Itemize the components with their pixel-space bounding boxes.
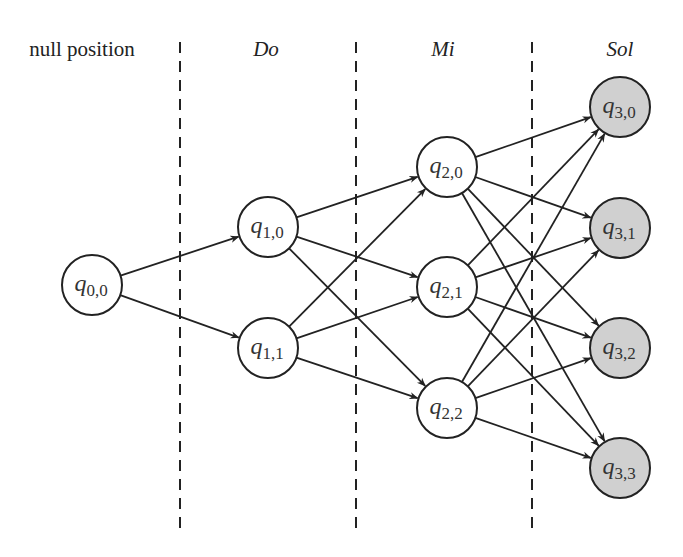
state-node-q20: q2,0 [417,137,477,197]
edge-q11-q20 [289,189,425,327]
edge-q22-q33 [475,418,590,458]
edge-q10-q20 [296,177,417,218]
state-transition-diagram: null positionDoMiSol q0,0q1,0q1,1q2,0q2,… [0,0,683,557]
edge-q21-q30 [468,129,599,265]
edge-q22-q32 [475,358,590,398]
edge-q21-q33 [468,309,599,446]
state-node-q30: q3,0 [590,77,650,137]
column-label: Sol [607,37,634,61]
state-node-q00: q0,0 [62,255,122,315]
state-node-q22: q2,2 [417,378,477,438]
column-label: Do [252,37,279,61]
state-node-q11: q1,1 [238,318,298,378]
state-node-q10: q1,0 [238,197,298,257]
state-node-q33: q3,3 [590,438,650,498]
edge-q22-q30 [462,134,605,382]
column-label: Mi [430,37,454,61]
edge-q11-q21 [296,297,417,338]
state-node-q31: q3,1 [590,198,650,258]
edge-q22-q31 [468,250,599,386]
column-dividers [180,42,532,530]
column-labels: null positionDoMiSol [29,37,633,61]
column-label: null position [29,37,135,61]
state-node-q32: q3,2 [590,318,650,378]
edge-q11-q22 [296,358,417,399]
state-node-q21: q2,1 [417,257,477,317]
edge-q20-q30 [475,117,590,157]
